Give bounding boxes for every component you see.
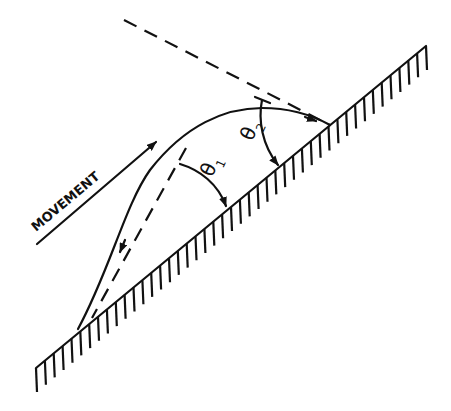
hatch-mark [355,105,356,129]
hatch-mark [125,295,126,319]
hatch-mark [178,251,179,275]
hatch-mark [302,149,303,173]
movement-label: MOVEMENT [28,169,102,235]
hatch-mark [231,207,232,231]
hatch-mark [63,346,64,370]
hatch-mark [267,178,268,202]
hatch-mark [373,90,374,114]
hatch-mark [382,83,383,107]
hatch-mark [36,368,37,392]
hatch-mark [80,331,81,355]
hatch-mark [275,170,276,194]
hatch-mark [213,222,214,246]
hatch-mark [417,53,418,77]
hatch-mark [107,310,108,334]
hatch-mark [240,200,241,224]
hatch-mark [399,68,400,92]
hatch-mark [329,127,330,151]
hatch-mark [169,258,170,282]
hatch-mark [258,185,259,209]
mound-on-slope-diagram: θ 1 θ 2 MOVEMENT [0,0,451,411]
hatch-mark [426,46,427,70]
hatch-mark [72,339,73,363]
movement-arrow [37,142,156,244]
hatch-mark [134,288,135,312]
lee-tangent-dashed-line [124,20,330,125]
hatch-mark [204,229,205,253]
hatch-mark [222,214,223,238]
hatch-mark [151,273,152,297]
slope-hatching [36,46,427,392]
hatch-mark [249,192,250,216]
mound-profile-curve [78,108,330,329]
hatch-mark [196,236,197,260]
movement-label-group: MOVEMENT [28,169,102,235]
theta2-label: θ 2 [235,115,269,146]
hatch-mark [98,317,99,341]
hatch-mark [160,266,161,290]
hatch-mark [408,61,409,85]
curve-direction-arrow-stoss [120,240,125,252]
hatch-mark [45,361,46,385]
stoss-tangent-dashed-line [92,148,186,318]
hatch-mark [284,163,285,187]
hatch-mark [142,280,143,304]
hatch-mark [311,141,312,165]
hatch-mark [320,134,321,158]
hatch-mark [391,75,392,99]
hatch-mark [364,97,365,121]
hatch-mark [346,112,347,136]
slope-surface [36,46,427,392]
hatch-mark [54,353,55,377]
hatch-mark [89,324,90,348]
hatch-mark [337,119,338,143]
hatch-mark [116,302,117,326]
theta1-label: θ 1 [195,151,229,182]
hatch-mark [293,156,294,180]
hatch-mark [187,244,188,268]
